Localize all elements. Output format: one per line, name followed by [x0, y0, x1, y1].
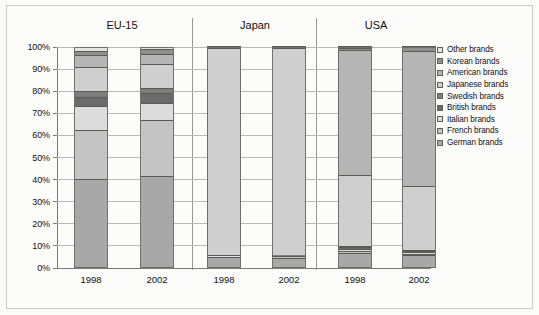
bar-segment-french-brands[interactable] — [140, 120, 174, 176]
bar-segment-swedish-brands[interactable] — [338, 246, 372, 247]
bar-segment-japanese-brands[interactable] — [74, 67, 108, 91]
gridline-50 — [57, 157, 431, 158]
bar-segment-french-brands[interactable] — [74, 130, 108, 179]
bar-segment-other-brands[interactable] — [140, 47, 174, 49]
bar-segment-german-brands[interactable] — [272, 258, 306, 268]
y-tick-70 — [53, 113, 57, 114]
legend-swatch-german-brands — [437, 140, 443, 146]
bar-segment-british-brands[interactable] — [140, 93, 174, 103]
y-axis-label-50: 50% — [32, 153, 50, 163]
legend-item-french-brands[interactable]: French brands — [437, 125, 535, 137]
bar-segment-korean-brands[interactable] — [207, 46, 241, 47]
legend-item-swedish-brands[interactable]: Swedish brands — [437, 90, 535, 102]
legend-swatch-british-brands — [437, 105, 443, 111]
bar-segment-korean-brands[interactable] — [140, 49, 174, 53]
bar-segment-british-brands[interactable] — [338, 247, 372, 249]
gridline-40 — [57, 179, 431, 180]
bar-segment-german-brands[interactable] — [338, 253, 372, 268]
gridline-70 — [57, 113, 431, 114]
bar-segment-japanese-brands[interactable] — [207, 48, 241, 255]
x-label-eu15-2002: 2002 — [146, 274, 167, 285]
bar-segment-german-brands[interactable] — [402, 255, 436, 268]
group-title-usa: USA — [365, 19, 388, 31]
bar-segment-other-brands[interactable] — [74, 47, 108, 51]
gridline-100 — [57, 47, 431, 48]
gridline-80 — [57, 91, 431, 92]
bar-segment-japanese-brands[interactable] — [140, 64, 174, 88]
legend-label-german-brands: German brands — [447, 138, 503, 147]
x-label-usa-2002: 2002 — [408, 274, 429, 285]
bar-segment-british-brands[interactable] — [402, 251, 436, 252]
y-tick-100 — [53, 47, 57, 48]
legend-item-japanese-brands[interactable]: Japanese brands — [437, 79, 535, 91]
bar-segment-german-brands[interactable] — [140, 176, 174, 268]
bar-usa-1998[interactable] — [338, 47, 372, 268]
y-axis-label-40: 40% — [32, 175, 50, 185]
bar-segment-american-brands[interactable] — [338, 50, 372, 175]
bar-segment-korean-brands[interactable] — [272, 46, 306, 47]
bar-segment-other-brands[interactable] — [402, 46, 436, 47]
y-tick-20 — [53, 223, 57, 224]
bar-eu15-2002[interactable] — [140, 47, 174, 268]
x-label-japan-1998: 1998 — [213, 274, 234, 285]
legend-item-korean-brands[interactable]: Korean brands — [437, 56, 535, 68]
bar-segment-french-brands[interactable] — [402, 254, 436, 255]
bar-segment-korean-brands[interactable] — [402, 47, 436, 50]
bar-segment-italian-brands[interactable] — [338, 249, 372, 252]
bar-segment-swedish-brands[interactable] — [74, 91, 108, 97]
legend-item-italian-brands[interactable]: Italian brands — [437, 114, 535, 126]
gridline-20 — [57, 223, 431, 224]
y-tick-60 — [53, 135, 57, 136]
bar-segment-italian-brands[interactable] — [74, 106, 108, 130]
bar-segment-german-brands[interactable] — [207, 257, 241, 268]
legend-item-other-brands[interactable]: Other brands — [437, 44, 535, 56]
bar-segment-other-brands[interactable] — [338, 46, 372, 47]
legend-label-korean-brands: Korean brands — [447, 57, 499, 66]
legend-swatch-american-brands — [437, 70, 443, 76]
bar-segment-japanese-brands[interactable] — [402, 186, 436, 250]
chart-container: EU-15 Japan USA 0%10%20%30%40%50%60%70%8… — [0, 0, 539, 315]
x-label-japan-2002: 2002 — [278, 274, 299, 285]
y-tick-40 — [53, 179, 57, 180]
legend-label-japanese-brands: Japanese brands — [447, 80, 508, 89]
legend-label-swedish-brands: Swedish brands — [447, 92, 504, 101]
y-tick-0 — [53, 268, 57, 269]
legend-item-british-brands[interactable]: British brands — [437, 102, 535, 114]
y-axis-label-100: 100% — [27, 42, 50, 52]
bar-segment-korean-brands[interactable] — [74, 51, 108, 55]
bar-segment-italian-brands[interactable] — [402, 252, 436, 254]
legend-label-other-brands: Other brands — [447, 45, 494, 54]
bar-japan-1998[interactable] — [207, 47, 241, 268]
bar-segment-japanese-brands[interactable] — [338, 175, 372, 246]
bar-segment-japanese-brands[interactable] — [272, 48, 306, 255]
y-tick-30 — [53, 201, 57, 202]
legend-label-italian-brands: Italian brands — [447, 115, 495, 124]
bar-eu15-1998[interactable] — [74, 47, 108, 268]
group-title-eu15: EU-15 — [106, 19, 137, 31]
bar-segment-american-brands[interactable] — [402, 51, 436, 186]
bar-japan-2002[interactable] — [272, 47, 306, 268]
legend-label-british-brands: British brands — [447, 103, 496, 112]
bar-segment-american-brands[interactable] — [74, 55, 108, 67]
y-tick-10 — [53, 245, 57, 246]
bar-segment-italian-brands[interactable] — [140, 103, 174, 120]
bar-segment-swedish-brands[interactable] — [140, 88, 174, 93]
legend-item-american-brands[interactable]: American brands — [437, 67, 535, 79]
y-axis-label-60: 60% — [32, 130, 50, 140]
bar-usa-2002[interactable] — [402, 47, 436, 268]
bar-segment-british-brands[interactable] — [74, 97, 108, 106]
bar-segment-american-brands[interactable] — [140, 54, 174, 64]
gridline-0 — [57, 268, 431, 269]
y-axis-label-80: 80% — [32, 86, 50, 96]
y-tick-80 — [53, 91, 57, 92]
x-label-eu15-1998: 1998 — [80, 274, 101, 285]
y-tick-50 — [53, 157, 57, 158]
y-axis-label-90: 90% — [32, 64, 50, 74]
x-label-usa-1998: 1998 — [344, 274, 365, 285]
bar-segment-german-brands[interactable] — [74, 179, 108, 269]
bar-segment-french-brands[interactable] — [338, 251, 372, 252]
bar-segment-korean-brands[interactable] — [338, 48, 372, 51]
legend-item-german-brands[interactable]: German brands — [437, 137, 535, 149]
legend-swatch-other-brands — [437, 47, 443, 53]
gridline-30 — [57, 201, 431, 202]
